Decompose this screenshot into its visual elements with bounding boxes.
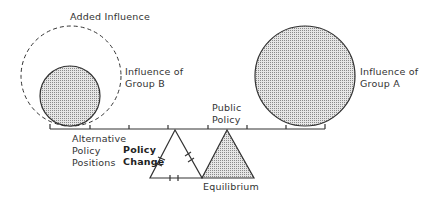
- policy-change-label-line1: Policy: [123, 144, 156, 156]
- alternative-positions-label-line2: Policy: [72, 145, 101, 157]
- diagram-canvas: [0, 0, 429, 201]
- added-influence-label: Added Influence: [70, 11, 150, 23]
- policy-change-label-line2: Change: [123, 156, 164, 168]
- group-b-label-line1: Influence of: [125, 66, 183, 78]
- policy-balance-diagram: Added Influence Influence of Group B Inf…: [0, 0, 429, 201]
- public-policy-label-line1: Public: [212, 102, 241, 114]
- public-policy-label-line2: Policy: [212, 114, 241, 126]
- equilibrium-triangle: [202, 130, 254, 178]
- policy-beam: [50, 124, 325, 129]
- equilibrium-label: Equilibrium: [203, 181, 259, 193]
- group-a-label-line1: Influence of: [360, 66, 418, 78]
- group-a-influence-circle: [255, 26, 355, 126]
- group-b-label-line2: Group B: [125, 78, 165, 90]
- alternative-positions-label-line1: Alternative: [72, 133, 126, 145]
- group-b-influence-circle: [40, 66, 100, 126]
- alternative-positions-label-line3: Positions: [72, 157, 116, 169]
- group-a-label-line2: Group A: [360, 78, 400, 90]
